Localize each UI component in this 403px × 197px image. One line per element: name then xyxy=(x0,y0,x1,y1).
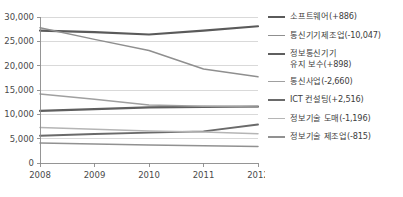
x-axis-tick-label: 2008 xyxy=(29,170,51,180)
legend-color-swatch xyxy=(268,81,285,83)
legend-item-label: 정보기술 도매(-1,196) xyxy=(290,113,370,124)
legend-item-label: ICT 컨설팅(+2,516) xyxy=(290,94,363,105)
legend-color-swatch xyxy=(268,53,285,55)
legend-item[interactable]: ICT 컨설팅(+2,516) xyxy=(268,94,403,106)
x-axis-tick-label: 2012 xyxy=(247,170,265,180)
series-lines xyxy=(40,26,258,146)
legend-item[interactable]: 통신사업(-2,660) xyxy=(268,76,403,88)
legend-item[interactable]: 정보통신기기 유지 보수(+898) xyxy=(268,48,403,69)
legend-item-label: 통신기기제조업(-10,047) xyxy=(290,30,381,41)
legend-item[interactable]: 소프트웨어(+886) xyxy=(268,11,403,23)
y-axis-tick-label: 20,000 xyxy=(4,61,34,71)
line-chart: 05,00010,00015,00020,00025,00030,000 200… xyxy=(0,0,403,197)
y-axis-tick-label: 30,000 xyxy=(4,12,34,22)
y-axis-tick-label: 0 xyxy=(29,158,34,168)
y-axis-tick-label: 15,000 xyxy=(4,85,34,95)
x-axis-ticks: 20082009201020112012 xyxy=(29,163,265,180)
legend-item-label: 소프트웨어(+886) xyxy=(290,11,357,22)
legend-item-label: 정보기술 제조업(-815) xyxy=(290,131,371,142)
legend-item[interactable]: 정보기술 도매(-1,196) xyxy=(268,113,403,125)
x-axis-tick-label: 2010 xyxy=(138,170,160,180)
series-line xyxy=(40,94,258,107)
legend-color-swatch xyxy=(268,118,285,120)
legend-item[interactable]: 통신기기제조업(-10,047) xyxy=(268,30,403,42)
y-axis-tick-label: 10,000 xyxy=(4,109,34,119)
x-axis-tick-label: 2009 xyxy=(84,170,106,180)
series-line xyxy=(40,143,258,146)
legend-color-swatch xyxy=(268,99,285,101)
y-axis-tick-label: 25,000 xyxy=(4,36,34,46)
chart-svg: 05,00010,00015,00020,00025,00030,000 200… xyxy=(0,0,265,197)
legend-color-swatch xyxy=(268,16,285,18)
plot-area: 05,00010,00015,00020,00025,00030,000 200… xyxy=(0,0,265,197)
legend-item-label: 통신사업(-2,660) xyxy=(290,76,352,87)
y-axis-tick-label: 5,000 xyxy=(10,134,34,144)
chart-legend: 소프트웨어(+886)통신기기제조업(-10,047)정보통신기기 유지 보수(… xyxy=(268,11,403,150)
legend-item-label: 정보통신기기 유지 보수(+898) xyxy=(290,48,351,69)
legend-color-swatch xyxy=(268,35,285,37)
y-axis-ticks: 05,00010,00015,00020,00025,00030,000 xyxy=(4,12,40,168)
x-axis-tick-label: 2011 xyxy=(193,170,215,180)
legend-item[interactable]: 정보기술 제조업(-815) xyxy=(268,131,403,143)
series-line xyxy=(40,26,258,34)
legend-color-swatch xyxy=(268,136,285,138)
